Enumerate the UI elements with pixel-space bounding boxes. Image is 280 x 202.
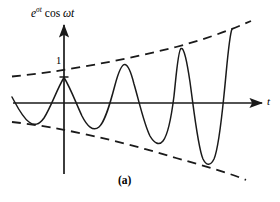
- y-axis-expression-label: eσt cos ωt: [31, 6, 74, 19]
- oscillating-signal-curve: [12, 29, 232, 164]
- plot-canvas: [0, 0, 280, 202]
- expr-cos: cos: [45, 7, 60, 19]
- expr-exponent: σt: [36, 5, 42, 14]
- panel-caption: (a): [118, 175, 131, 187]
- upper-envelope-curve: [12, 21, 251, 77]
- expr-omega-t: ωt: [63, 7, 74, 19]
- tick-one-label: 1: [56, 56, 61, 67]
- t-axis-label: t: [267, 96, 270, 107]
- lower-envelope-curve: [12, 122, 246, 180]
- exponential-cosine-figure: eσt cos ωt 1 t (a): [0, 0, 280, 202]
